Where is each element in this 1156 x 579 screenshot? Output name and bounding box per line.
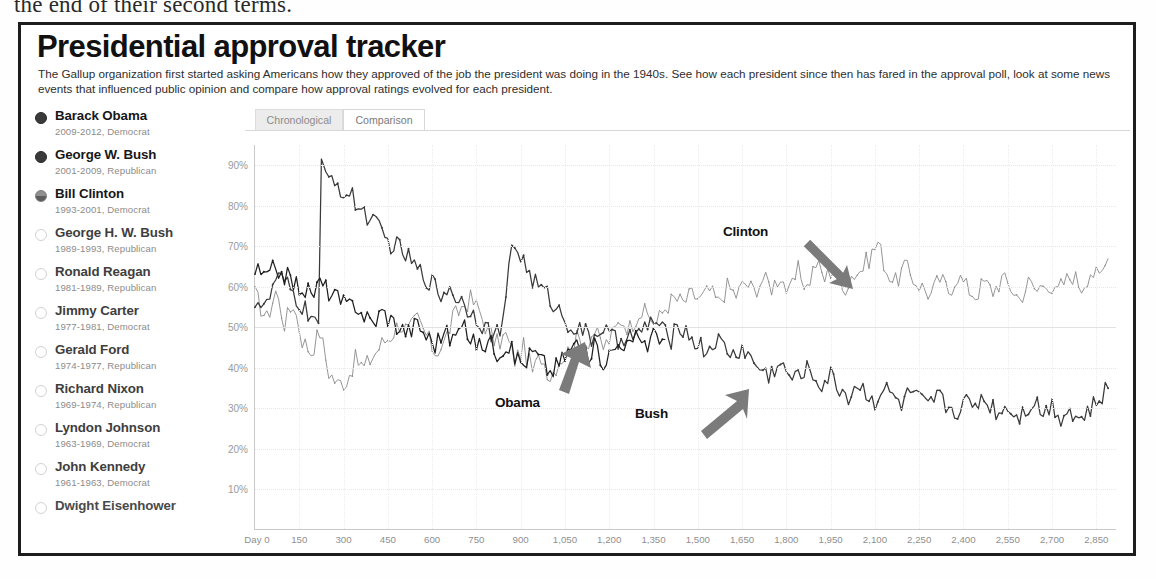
selection-dot-icon[interactable] — [35, 112, 47, 124]
series-point — [945, 281, 946, 282]
approval-tracker-widget: Presidential approval tracker The Gallup… — [18, 22, 1136, 556]
series-point — [644, 340, 646, 342]
series-point — [1089, 415, 1091, 417]
series-point — [529, 347, 531, 349]
selection-dot-icon[interactable] — [35, 268, 47, 280]
arrow-obama-icon — [555, 338, 599, 398]
selection-dot-icon[interactable] — [35, 151, 47, 163]
series-point — [493, 353, 495, 355]
list-item[interactable]: Richard Nixon 1969-1974, Republican — [31, 382, 231, 421]
y-axis-tick-label: 20% — [228, 443, 248, 454]
series-point — [354, 209, 356, 211]
series-point — [334, 289, 336, 291]
president-name: Bill Clinton — [55, 186, 124, 201]
president-meta: 1989-1993, Republican — [55, 243, 156, 254]
series-point — [449, 345, 451, 347]
series-point — [422, 331, 424, 333]
series-point — [883, 270, 884, 271]
list-item[interactable]: Lyndon Johnson 1963-1969, Democrat — [31, 421, 231, 460]
x-axis-tick-label: 1,200 — [597, 534, 621, 545]
selection-dot-icon[interactable] — [35, 385, 47, 397]
list-item[interactable]: Dwight Eisenhower — [31, 499, 231, 517]
arrow-clinton-icon — [803, 239, 859, 293]
selection-dot-icon[interactable] — [35, 424, 47, 436]
series-point — [1098, 400, 1100, 402]
series-point — [635, 330, 637, 332]
president-name: Ronald Reagan — [55, 264, 151, 279]
y-axis-tick-label: 30% — [228, 403, 248, 414]
tab-comparison[interactable]: Comparison — [343, 109, 425, 130]
x-gridline — [609, 145, 610, 529]
tab-chronological[interactable]: Chronological — [255, 109, 343, 130]
series-point — [537, 354, 539, 356]
chart-plot-area[interactable]: 10%20%30%40%50%60%70%80%90%Day 015030045… — [254, 145, 1116, 530]
series-point — [753, 362, 755, 364]
tab-strip: Chronological Comparison — [245, 109, 1130, 131]
president-name: Jimmy Carter — [55, 303, 139, 318]
series-point — [656, 322, 658, 324]
arrow-bush-icon — [697, 385, 753, 441]
list-item[interactable]: George W. Bush 2001-2009, Republican — [31, 148, 231, 187]
series-point — [1072, 420, 1074, 422]
series-point — [1016, 294, 1017, 295]
x-axis-tick-label: 2,850 — [1084, 534, 1108, 545]
selection-dot-icon[interactable] — [35, 190, 47, 202]
selection-dot-icon[interactable] — [35, 229, 47, 241]
selection-dot-icon[interactable] — [35, 502, 47, 514]
series-point — [372, 214, 374, 216]
page-subtitle: The Gallup organization first started as… — [38, 67, 1118, 96]
y-gridline — [255, 489, 1116, 490]
series-point — [263, 315, 264, 316]
series-point — [661, 338, 663, 340]
series-point — [405, 324, 406, 325]
series-point — [644, 303, 645, 304]
series-point — [983, 400, 985, 402]
series-point — [815, 380, 817, 382]
series-point — [254, 273, 256, 275]
list-item[interactable]: John Kennedy 1961-1963, Democrat — [31, 460, 231, 499]
president-meta: 1963-1969, Democrat — [55, 438, 150, 449]
series-point — [673, 323, 675, 325]
annotation-bush: Bush — [635, 406, 668, 421]
series-point — [443, 292, 445, 294]
x-gridline — [875, 145, 876, 529]
series-point — [470, 315, 472, 317]
y-gridline — [255, 449, 1116, 450]
x-axis-tick-label: 2,100 — [863, 534, 887, 545]
series-point — [744, 357, 746, 359]
series-point — [493, 345, 494, 346]
series-point — [307, 351, 308, 352]
president-meta: 1961-1963, Democrat — [55, 477, 150, 488]
x-gridline — [698, 145, 699, 529]
y-gridline — [255, 408, 1116, 409]
series-point — [965, 394, 967, 396]
series-point — [272, 302, 273, 303]
list-item[interactable]: Barack Obama 2009-2012, Democrat — [31, 109, 231, 148]
series-point — [434, 278, 436, 280]
y-axis-tick-label: 50% — [228, 322, 248, 333]
list-item[interactable]: Gerald Ford 1974-1977, Republican — [31, 343, 231, 382]
x-gridline — [919, 145, 920, 529]
list-item[interactable]: Jimmy Carter 1977-1981, Democrat — [31, 304, 231, 343]
series-point — [620, 338, 622, 340]
list-item[interactable]: Bill Clinton 1993-2001, Democrat — [31, 187, 231, 226]
series-point — [337, 182, 339, 184]
series-point — [361, 362, 362, 363]
series-point — [972, 296, 973, 297]
y-axis-tick-label: 90% — [228, 160, 248, 171]
series-point — [378, 310, 380, 312]
x-axis-tick-label: 2,550 — [996, 534, 1020, 545]
selection-dot-icon[interactable] — [35, 307, 47, 319]
x-axis-tick-label: Day 0 — [244, 534, 269, 545]
selection-dot-icon[interactable] — [35, 463, 47, 475]
y-gridline — [255, 368, 1116, 369]
selection-dot-icon[interactable] — [35, 346, 47, 358]
series-point — [1045, 405, 1047, 407]
series-point — [1105, 265, 1106, 266]
list-item[interactable]: George H. W. Bush 1989-1993, Republican — [31, 226, 231, 265]
series-point — [886, 382, 888, 384]
x-gridline — [388, 145, 389, 529]
list-item[interactable]: Ronald Reagan 1981-1989, Republican — [31, 265, 231, 304]
series-point — [780, 364, 782, 366]
series-point — [957, 418, 959, 420]
